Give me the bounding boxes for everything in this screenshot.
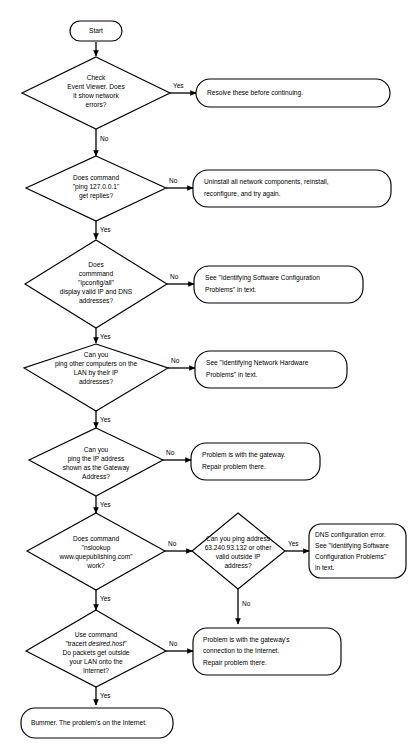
node-d8-line-2: Do packets get outside bbox=[62, 649, 129, 657]
node-b5-line-1: Repair problem there. bbox=[202, 463, 266, 471]
node-d7-line-2: valid outside IP bbox=[216, 553, 261, 560]
edge-label-d7-no: No bbox=[242, 600, 251, 607]
node-start[interactable]: Start bbox=[70, 21, 122, 41]
node-d5-line-0: Can you bbox=[84, 446, 109, 454]
node-b3-line-0: See "Identifying Software Configuration bbox=[205, 274, 320, 282]
node-d3-ipconfig[interactable]: Does commmand "ipconfig/all" display val… bbox=[25, 240, 167, 328]
node-d6-line-0: Does command bbox=[73, 535, 120, 542]
edge-label-d6-no: No bbox=[168, 540, 177, 547]
node-b8-gateway-internet[interactable]: Problem is with the gateway's connection… bbox=[193, 628, 341, 675]
node-d8-line-1-tracert: "tracert desired.host" bbox=[65, 640, 127, 647]
flowchart-canvas: Start Check Event Viewer. Does it show n… bbox=[0, 0, 415, 754]
node-b4-network-hardware[interactable]: See "Identifying Network Hardware Proble… bbox=[195, 351, 347, 388]
node-d5-ping-gateway[interactable]: Can you ping the IP address shown as the… bbox=[29, 428, 163, 496]
node-b7-line-3: in text. bbox=[315, 564, 335, 571]
node-d3-line-3: display valid IP and DNS bbox=[60, 288, 133, 296]
node-d8-italic-host: desired.host bbox=[88, 640, 125, 647]
node-d6-nslookup[interactable]: Does command "nslookup www.quepublishing… bbox=[27, 513, 165, 590]
node-d1-line-0: Check bbox=[87, 74, 106, 81]
edge-label-d5-yes: Yes bbox=[100, 501, 111, 508]
edge-label-d1-no: No bbox=[100, 135, 109, 142]
node-d3-line-2: "ipconfig/all" bbox=[78, 279, 114, 287]
node-d7-line-3: address? bbox=[224, 562, 251, 569]
node-d8-line-0: Use command bbox=[75, 631, 118, 638]
edge-label-d2-yes: Yes bbox=[100, 226, 111, 233]
edge-label-d5-no: No bbox=[166, 449, 175, 456]
node-d1-line-3: errors? bbox=[86, 101, 107, 108]
edge-label-d4-no: No bbox=[171, 357, 180, 364]
node-d5-line-3: Address? bbox=[82, 473, 110, 480]
node-d5-line-1: ping the IP address bbox=[68, 455, 125, 463]
edge-label-d8-yes: Yes bbox=[100, 692, 111, 699]
node-b7-dns-config-error[interactable]: DNS configuration error. See "Identifyin… bbox=[309, 524, 406, 578]
node-d4-line-0: Can you bbox=[84, 351, 109, 359]
node-b2-line-1: reconfigure, and try again. bbox=[204, 190, 281, 198]
node-b2-uninstall[interactable]: Uninstall all network components, reinst… bbox=[193, 170, 391, 207]
node-d3-line-1: commmand bbox=[79, 270, 114, 277]
node-b3-software-config[interactable]: See "Identifying Software Configuration … bbox=[194, 266, 363, 303]
edge-label-d8-no: No bbox=[169, 640, 178, 647]
node-b7-line-1: See "Identifying Software bbox=[315, 542, 389, 550]
node-d1-line-2: it show network bbox=[73, 92, 119, 99]
node-b7-line-2: Configuration Problems" bbox=[315, 553, 387, 561]
node-d8-line-4: Internet? bbox=[83, 667, 109, 674]
edge-label-d6-yes: Yes bbox=[100, 595, 111, 602]
node-d7-line-0: Can you ping address bbox=[206, 535, 271, 543]
edge-label-d4-yes: Yes bbox=[100, 416, 111, 423]
node-d7-ping-outside-ip[interactable]: Can you ping address 63.240.93.132 or ot… bbox=[192, 513, 285, 589]
node-d2-ping-loopback[interactable]: Does command "ping 127.0.0.1" get replie… bbox=[26, 156, 166, 221]
edge-label-d3-no: No bbox=[170, 273, 179, 280]
node-b3-line-1: Problems" in text. bbox=[205, 286, 257, 293]
edge-label-d1-yes: Yes bbox=[173, 82, 184, 89]
node-d4-line-3: addresses? bbox=[79, 378, 113, 385]
node-b9-bummer[interactable]: Bummer. The problem's on the Internet. bbox=[21, 708, 173, 738]
node-d4-line-1: ping other computers on the bbox=[55, 360, 137, 368]
node-d2-line-2: get replies? bbox=[79, 192, 113, 200]
node-b8-line-2: Repair problem there. bbox=[203, 659, 267, 667]
node-d7-line-1: 63.240.93.132 or other bbox=[205, 544, 273, 551]
node-b5-line-0: Problem is with the gateway. bbox=[202, 451, 286, 459]
node-b7-line-0: DNS configuration error. bbox=[315, 531, 386, 539]
node-d6-line-3: work? bbox=[86, 562, 105, 569]
node-start-label: Start bbox=[89, 27, 103, 34]
node-b1-resolve[interactable]: Resolve these before continuing. bbox=[196, 79, 390, 107]
node-b8-line-1: connection to the Internet. bbox=[203, 647, 279, 654]
node-d5-line-2: shown as the Gateway bbox=[63, 464, 130, 472]
node-d8-tracert[interactable]: Use command "tracert desired.host" Do pa… bbox=[26, 610, 166, 687]
edge-label-d3-yes: Yes bbox=[100, 333, 111, 340]
node-d6-line-1: "nslookup bbox=[82, 544, 111, 552]
node-b1-line-0: Resolve these before continuing. bbox=[207, 89, 303, 97]
node-b5-gateway-problem[interactable]: Problem is with the gateway. Repair prob… bbox=[191, 443, 320, 480]
node-d8-line-3: your LAN onto the bbox=[69, 658, 122, 666]
node-d1-line-1: Event Viewer. Does bbox=[67, 83, 125, 90]
node-d3-line-0: Does bbox=[88, 261, 104, 268]
node-d4-line-2: LAN by their IP bbox=[74, 369, 119, 377]
node-d1-event-viewer[interactable]: Check Event Viewer. Does it show network… bbox=[22, 57, 170, 129]
node-d4-ping-lan[interactable]: Can you ping other computers on the LAN … bbox=[24, 344, 168, 411]
node-b4-line-0: See "Identifying Network Hardware bbox=[206, 359, 309, 367]
node-d6-line-2: www.quepublishing.com" bbox=[58, 553, 133, 561]
node-b2-line-0: Uninstall all network components, reinst… bbox=[204, 178, 329, 186]
node-d2-line-0: Does command bbox=[73, 174, 120, 181]
node-d2-line-1: "ping 127.0.0.1" bbox=[73, 183, 120, 191]
node-b4-line-1: Problems" in text. bbox=[206, 371, 258, 378]
node-b9-line-0: Bummer. The problem's on the Internet. bbox=[31, 719, 147, 727]
node-b8-line-0: Problem is with the gateway's bbox=[203, 636, 290, 644]
edge-label-d2-no: No bbox=[169, 177, 178, 184]
edge-label-d7-yes: Yes bbox=[288, 540, 299, 547]
node-d3-line-4: addresses? bbox=[79, 297, 113, 304]
